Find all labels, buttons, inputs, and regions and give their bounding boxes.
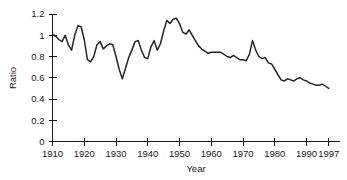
y-tick-label: 0.4	[31, 93, 44, 104]
x-tick-label: 1930	[105, 148, 126, 159]
x-tick-label: 1940	[137, 148, 158, 159]
x-axis-tick-labels: 1910192019301940195019601970198019901997	[42, 148, 339, 159]
x-tick-label: 1990	[296, 148, 317, 159]
ratio-data-line	[53, 18, 329, 88]
x-tick-label: 1980	[264, 148, 285, 159]
chart-container: 00.20.40.60.811.2 1910192019301940195019…	[0, 0, 347, 180]
x-tick-label: 1910	[42, 148, 63, 159]
x-tick-label: 1920	[74, 148, 95, 159]
ratio-line-chart: 00.20.40.60.811.2 1910192019301940195019…	[0, 0, 347, 180]
y-tick-label: 0.8	[31, 51, 44, 62]
x-tick-label: 1970	[232, 148, 253, 159]
x-axis-title: Year	[186, 163, 205, 174]
y-tick-label: 1.2	[31, 8, 44, 19]
x-tick-label: 1950	[169, 148, 190, 159]
x-tick-label: 1997	[318, 148, 339, 159]
y-axis-tick-labels: 00.20.40.60.811.2	[31, 8, 44, 147]
y-tick-label: 0.6	[31, 72, 44, 83]
y-axis-title: Ratio	[7, 67, 18, 89]
x-tick-label: 1960	[201, 148, 222, 159]
y-tick-label: 0.2	[31, 115, 44, 126]
y-tick-label: 0	[39, 136, 44, 147]
y-tick-label: 1	[39, 30, 44, 41]
